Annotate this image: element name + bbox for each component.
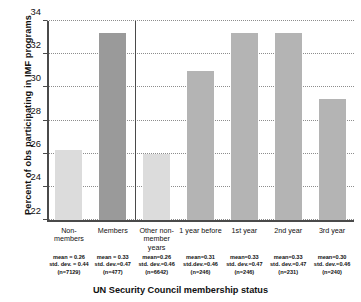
stat-block: mean=0.26std. dev.=0.46(n=6642) — [135, 254, 179, 276]
statistics-annotations: mean = 0.26std. dev. = 0.44(n=7129)mean … — [47, 254, 354, 280]
bar — [319, 99, 346, 220]
bar — [275, 33, 302, 220]
x-category-label: 2nd year — [266, 227, 310, 235]
x-category-label: 1st year — [222, 227, 266, 235]
bar — [99, 33, 126, 220]
y-tick-label: 22 — [31, 204, 41, 215]
x-category-label: Members — [91, 227, 135, 235]
bar — [55, 150, 82, 220]
stat-n: (n=477) — [91, 269, 135, 276]
stat-stddev: std. dev. = 0.44 — [47, 261, 91, 268]
y-tick-label: 24 — [31, 171, 41, 182]
stat-mean: mean = 0.26 — [47, 254, 91, 261]
y-tick-label: 34 — [31, 5, 41, 16]
y-tick-label: 26 — [31, 138, 41, 149]
stat-block: mean=0.33std. dev.=0.47(n=246) — [222, 254, 266, 276]
chart-figure: Percent of obs participating in IMF prog… — [0, 0, 361, 302]
x-axis-title: UN Security Council membership status — [0, 285, 361, 295]
stat-mean: mean=0.33 — [266, 254, 310, 261]
stat-n: (n=231) — [266, 269, 310, 276]
x-category-label: Non-members — [47, 227, 91, 244]
stat-n: (n=7129) — [47, 269, 91, 276]
bar — [187, 71, 214, 220]
stat-n: (n=246) — [179, 269, 223, 276]
gridline — [47, 20, 354, 21]
bar — [143, 154, 170, 220]
stat-stddev: std.dev.=0.46 — [179, 261, 223, 268]
stat-stddev: std. dev.=0.47 — [91, 261, 135, 268]
stat-block: mean=0.30std. dev.=0.46(n=240) — [310, 254, 354, 276]
stat-mean: mean=0.26 — [135, 254, 179, 261]
x-axis-line — [47, 220, 354, 222]
stat-mean: mean=0.30 — [310, 254, 354, 261]
stat-mean: mean=0.31 — [179, 254, 223, 261]
stat-n: (n=6642) — [135, 269, 179, 276]
x-axis-category-labels: Non-membersMembersOther non-member years… — [47, 227, 354, 257]
y-tick-label: 30 — [31, 71, 41, 82]
stat-mean: mean = 0.33 — [91, 254, 135, 261]
stat-stddev: std. dev.=0.46 — [310, 261, 354, 268]
y-axis-line — [47, 21, 49, 222]
stat-block: mean = 0.33std. dev.=0.47(n=477) — [91, 254, 135, 276]
stat-block: mean = 0.26std. dev. = 0.44(n=7129) — [47, 254, 91, 276]
y-tick-label: 28 — [31, 105, 41, 116]
plot-area: 22242628303234 — [47, 21, 354, 222]
stat-stddev: std. dev.=0.47 — [266, 261, 310, 268]
x-category-label: Other non-member years — [135, 227, 179, 252]
stat-n: (n=240) — [310, 269, 354, 276]
bar — [231, 33, 258, 220]
stat-block: mean=0.33std. dev.=0.47(n=231) — [266, 254, 310, 276]
stat-mean: mean=0.33 — [222, 254, 266, 261]
stat-block: mean=0.31std.dev.=0.46(n=246) — [179, 254, 223, 276]
stat-stddev: std. dev.=0.47 — [222, 261, 266, 268]
gridline — [47, 53, 354, 54]
group-divider-line — [135, 21, 136, 222]
x-category-label: 3rd year — [310, 227, 354, 235]
stat-n: (n=246) — [222, 269, 266, 276]
x-category-label: 1 year before — [179, 227, 223, 235]
stat-stddev: std. dev.=0.46 — [135, 261, 179, 268]
y-tick-label: 32 — [31, 38, 41, 49]
